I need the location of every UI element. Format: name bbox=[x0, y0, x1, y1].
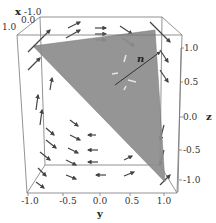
x-tick-1.0: 1.0 bbox=[2, 22, 17, 32]
vector-field-plot: n 1.0 0.5 0.0 -0.5 -1.0 z -1.0 -0.5 0 bbox=[0, 0, 216, 223]
y-tick-0.5: 0.5 bbox=[125, 196, 140, 206]
z-tick-0.0: 0.0 bbox=[183, 112, 198, 122]
x-axis: x -1.0 0.0 1.0 bbox=[2, 6, 42, 32]
y-tick-neg1.0: -1.0 bbox=[21, 196, 39, 206]
y-tick-1.0: 1.0 bbox=[157, 196, 172, 206]
x-tick-0.0: 0.0 bbox=[21, 15, 36, 25]
z-tick-neg0.5: -0.5 bbox=[183, 145, 201, 155]
plane-surface bbox=[33, 30, 165, 182]
z-tick-neg1.0: -1.0 bbox=[183, 175, 201, 185]
z-axis: 1.0 0.5 0.0 -0.5 -1.0 z bbox=[178, 43, 212, 192]
z-tick-0.5: 0.5 bbox=[184, 77, 199, 87]
normal-vector-label: n bbox=[137, 53, 144, 64]
y-tick-0.0: 0.0 bbox=[93, 196, 108, 206]
y-tick-neg0.5: -0.5 bbox=[59, 196, 77, 206]
y-axis-label: y bbox=[96, 208, 104, 219]
y-axis: -1.0 -0.5 0.0 0.5 1.0 y bbox=[21, 193, 171, 219]
z-tick-1.0: 1.0 bbox=[184, 43, 199, 53]
z-axis-label: z bbox=[206, 111, 212, 122]
